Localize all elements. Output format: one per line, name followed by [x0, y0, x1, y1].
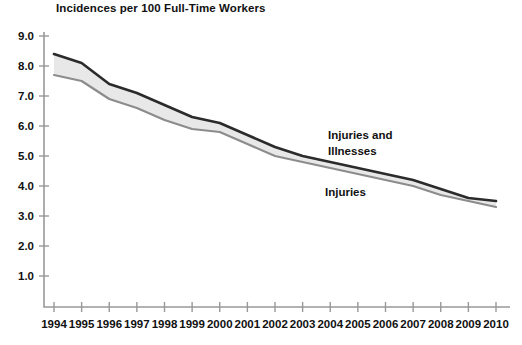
- x-tick-label: 2001: [235, 318, 261, 330]
- x-tick-label: 2008: [428, 318, 454, 330]
- x-tick-label: 1998: [152, 318, 178, 330]
- line-chart-plot: 1.02.03.04.05.06.07.08.09.0 199419951996…: [0, 0, 522, 345]
- y-tick-label: 8.0: [18, 60, 34, 72]
- annotation-injuries-and-illnesses-line2: Illnesses: [328, 145, 377, 157]
- y-tick-label: 4.0: [18, 180, 34, 192]
- x-tick-label: 2004: [317, 318, 343, 330]
- x-tick-label: 2003: [290, 318, 316, 330]
- y-tick-label: 6.0: [18, 120, 34, 132]
- x-tick-label: 2010: [483, 318, 509, 330]
- y-tick-label: 5.0: [18, 150, 34, 162]
- x-tick-label: 1997: [124, 318, 150, 330]
- x-tick-label: 2006: [373, 318, 399, 330]
- chart-axes: [44, 32, 510, 307]
- x-tick-label: 1995: [69, 318, 95, 330]
- x-tick-label: 2009: [456, 318, 482, 330]
- annotation-injuries: Injuries: [325, 186, 366, 198]
- y-tick-label: 9.0: [18, 30, 34, 42]
- data-series-lines: [54, 54, 496, 207]
- x-tick-label: 1999: [179, 318, 205, 330]
- series-line-injuries-and-illnesses: [54, 54, 496, 201]
- y-tick-label: 1.0: [18, 270, 34, 282]
- x-tick-label: 1996: [96, 318, 122, 330]
- x-tick-label: 2005: [345, 318, 371, 330]
- x-tick-label: 2000: [207, 318, 233, 330]
- y-tick-label: 2.0: [18, 240, 34, 252]
- chart-container: Incidences per 100 Full-Time Workers 1.0…: [0, 0, 522, 345]
- x-tick-label: 1994: [41, 318, 67, 330]
- annotation-injuries-and-illnesses-line1: Injuries and: [328, 129, 393, 141]
- y-tick-label: 7.0: [18, 90, 34, 102]
- y-tick-label: 3.0: [18, 210, 34, 222]
- x-tick-label: 2007: [400, 318, 426, 330]
- x-tick-label: 2002: [262, 318, 288, 330]
